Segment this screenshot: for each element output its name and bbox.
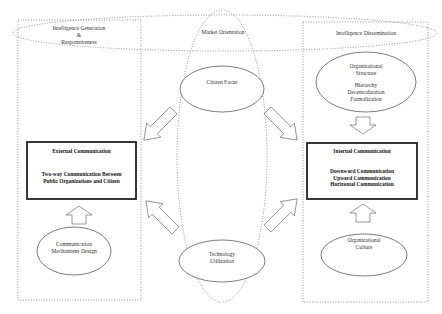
citizen-focus-label: Citizen Focus: [192, 79, 252, 86]
label-line: Utilization: [192, 258, 252, 265]
intelligence-dissemination-label: Intelligence Dissemination: [326, 30, 406, 37]
label-line: Culture: [334, 244, 394, 251]
arrow-up-right-panel: [350, 204, 376, 222]
label-line: Decentralization: [326, 89, 406, 96]
label-line: Hierarchy: [326, 82, 406, 89]
arrow-down-right-panel: [350, 117, 376, 134]
label-line: Responsiveness: [44, 39, 114, 46]
org-structure-label: Organizational Structure Hierarchy Decen…: [326, 63, 406, 103]
label-line: Upward Communication: [307, 175, 417, 182]
arrow-technology-to-internal: [260, 192, 304, 236]
technology-utilization-label: Technology Utilization: [192, 251, 252, 265]
label-line: Communication: [44, 241, 104, 248]
citizen-focus-ellipse: [180, 66, 264, 112]
label-line: Organizational: [326, 63, 406, 70]
label-line: Organizational: [334, 237, 394, 244]
internal-communication-body: Downward Communication Upward Communicat…: [307, 168, 417, 188]
arrow-up-left-panel: [66, 206, 92, 224]
label-line: Mechanisms Design: [44, 248, 104, 255]
arrow-technology-to-external: [139, 194, 183, 238]
label-line: Public Organizations and Citizen: [27, 178, 136, 185]
external-communication-title: External Communication: [27, 148, 136, 155]
intelligence-generation-label: Intelligence Generation & Responsiveness: [44, 25, 114, 46]
external-communication-body: Two-way Communication Between Public Org…: [27, 171, 136, 184]
label-line: Downward Communication: [307, 168, 417, 175]
arrow-citizen-to-external: [137, 103, 181, 147]
label-line: Structure: [326, 70, 406, 77]
org-culture-label: Organizational Culture: [334, 237, 394, 251]
internal-communication-title: Internal Communication: [307, 148, 417, 155]
label-line: Intelligence Generation: [44, 25, 114, 32]
comm-mechanisms-label: Communication Mechanisms Design: [44, 241, 104, 255]
label-line: Horizontal Communication: [307, 181, 417, 188]
label-line: Formalization: [326, 96, 406, 103]
diagram-canvas: [0, 0, 442, 314]
label-line: Technology: [192, 251, 252, 258]
market-orientation-label: Market Orientation: [190, 29, 256, 36]
label-line: Two-way Communication Between: [27, 171, 136, 178]
label-line: &: [44, 32, 114, 39]
